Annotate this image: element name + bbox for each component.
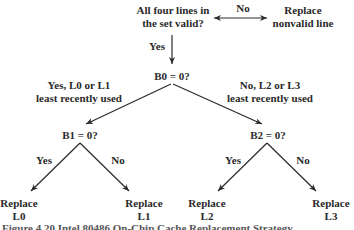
node-replace-l3-line2: L3 <box>312 210 349 223</box>
edge-label-yes-start: Yes <box>149 40 165 53</box>
node-replace-nonvalid-line1: Replace <box>273 4 334 17</box>
arrow-b1-to-l0 <box>31 143 80 191</box>
node-start-line2: the set valid? <box>137 17 210 30</box>
edge-label-b1-yes: Yes <box>36 154 52 167</box>
edge-label-b0-no: No, L2 or L3 least recently used <box>227 79 313 105</box>
edge-label-b0-no-line2: least recently used <box>227 92 313 105</box>
node-replace-l0-line1: Replace <box>0 197 37 210</box>
edge-label-b0-no-line1: No, L2 or L3 <box>227 79 313 92</box>
edge-label-b2-yes: Yes <box>225 154 241 167</box>
node-replace-nonvalid-line2: nonvalid line <box>273 17 334 30</box>
node-b2: B2 = 0? <box>250 129 286 142</box>
connector-lines <box>0 0 354 230</box>
edge-label-b2-no: No <box>296 154 309 167</box>
edge-label-b1-no: No <box>111 154 124 167</box>
arrow-b2-to-l3 <box>267 143 316 191</box>
node-replace-l3-line1: Replace <box>312 197 349 210</box>
node-start-line1: All four lines in <box>137 4 210 17</box>
node-b1: B1 = 0? <box>62 129 98 142</box>
edge-label-b0-yes-line2: least recently used <box>36 92 122 105</box>
node-replace-l0: Replace L0 <box>0 197 37 223</box>
node-start: All four lines in the set valid? <box>137 4 210 30</box>
node-replace-l2: Replace L2 <box>188 197 225 223</box>
node-replace-l2-line1: Replace <box>188 197 225 210</box>
node-replace-nonvalid: Replace nonvalid line <box>273 4 334 30</box>
node-replace-l1-line1: Replace <box>125 197 162 210</box>
edge-label-no-top: No <box>236 2 249 15</box>
arrow-b2-to-l2 <box>218 143 267 191</box>
edge-label-b0-yes-line1: Yes, L0 or L1 <box>36 79 122 92</box>
node-replace-l3: Replace L3 <box>312 197 349 223</box>
edge-label-b0-yes: Yes, L0 or L1 least recently used <box>36 79 122 105</box>
arrow-b1-to-l1 <box>80 143 129 191</box>
figure-caption: Figure 4.20 Intel 80486 On-Chip Cache Re… <box>2 222 293 230</box>
node-replace-l1: Replace L1 <box>125 197 162 223</box>
node-b0: B0 = 0? <box>154 70 190 83</box>
diagram-canvas: All four lines in the set valid? No Repl… <box>0 0 354 230</box>
